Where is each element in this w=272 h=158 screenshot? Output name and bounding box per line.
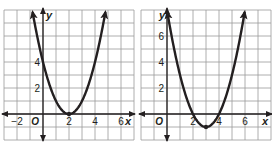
y-tick-label: 2 xyxy=(34,83,40,94)
x-tick-label: 4 xyxy=(216,116,222,127)
x-tick-label: 6 xyxy=(118,116,124,127)
x-tick-label: 2 xyxy=(66,116,72,127)
parabola-right-branch xyxy=(206,12,245,127)
y-tick-label: 2 xyxy=(158,83,164,94)
y-tick-label: 4 xyxy=(158,57,164,68)
x-tick-label: 6 xyxy=(242,116,248,127)
parabola-right-branch xyxy=(69,12,105,114)
y-axis-label: y xyxy=(45,9,53,21)
left-graph-svg: −224624Oxy xyxy=(0,0,136,158)
labels: −224624Oxy xyxy=(11,9,132,127)
labels: 246246Oxy xyxy=(155,9,269,127)
origin-label: O xyxy=(155,116,163,127)
vertex-point xyxy=(204,125,208,129)
x-tick-label: 4 xyxy=(92,116,98,127)
y-tick-label: 6 xyxy=(158,31,164,42)
right-graph-svg: 246246Oxy xyxy=(136,0,272,158)
y-tick-label: 4 xyxy=(34,57,40,68)
y-axis-label: y xyxy=(158,9,166,21)
left-graph: −224624Oxy xyxy=(0,0,136,158)
parabola-left-branch xyxy=(167,12,206,127)
x-axis-label: x xyxy=(261,115,269,127)
x-tick-label: −2 xyxy=(11,116,23,127)
x-tick-label: 2 xyxy=(190,116,196,127)
x-axis-label: x xyxy=(124,115,132,127)
right-graph: 246246Oxy xyxy=(136,0,272,158)
origin-label: O xyxy=(31,116,39,127)
